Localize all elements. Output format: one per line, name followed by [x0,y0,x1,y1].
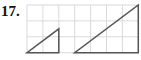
grid-lines [27,5,138,53]
grid-figure [0,0,141,60]
triangles [27,5,138,53]
